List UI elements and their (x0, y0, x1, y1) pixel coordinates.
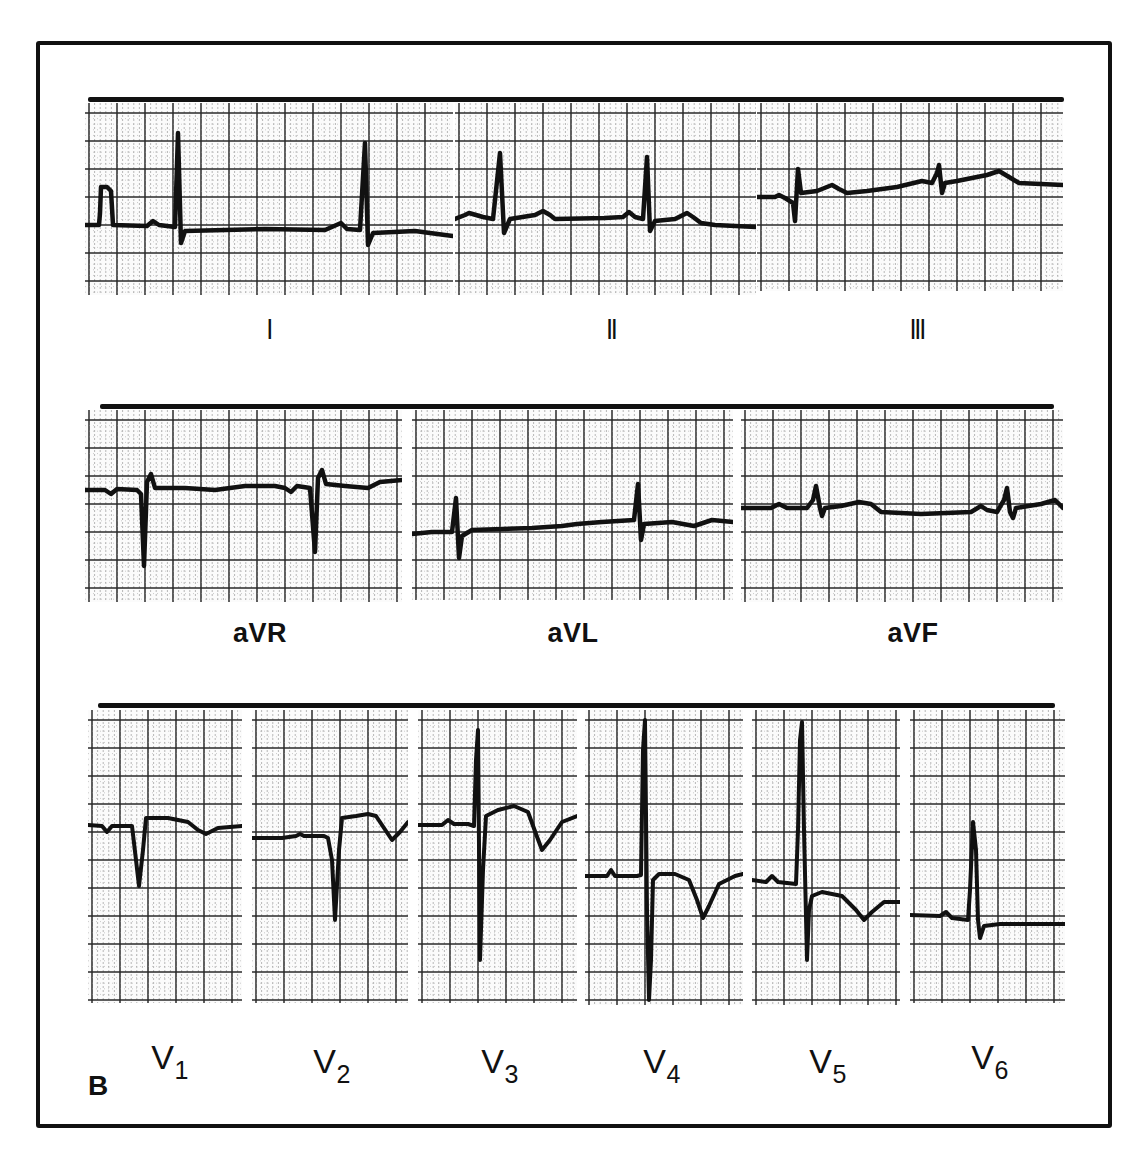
ecg-grid-and-trace (757, 103, 1063, 291)
ecg-grid-and-trace (252, 710, 408, 1003)
ecg-grid-and-trace (910, 710, 1065, 1003)
ecg-grid-and-trace (752, 710, 900, 1005)
lead-label-avr: aVR (205, 618, 315, 649)
ecg-grid-and-trace (585, 710, 743, 1005)
lead-v1-strip (88, 710, 242, 1003)
lead-i-strip (85, 103, 453, 295)
lead-label-v3: V3 (460, 1042, 540, 1089)
lead-v5-strip (752, 710, 900, 1005)
lead-iii-strip (757, 103, 1063, 291)
lead-label-v5: V5 (788, 1042, 868, 1089)
lead-v4-strip (585, 710, 743, 1005)
lead-label-iii: III (896, 312, 940, 346)
ecg-grid-and-trace (88, 710, 242, 1003)
lead-label-ii: II (590, 312, 634, 346)
ecg-grid-and-trace (455, 103, 756, 295)
ecg-grid-and-trace (85, 103, 453, 295)
lead-label-v4: V4 (622, 1042, 702, 1089)
lead-avf-strip (741, 410, 1063, 602)
lead-v3-strip (418, 710, 577, 1003)
ecg-grid-and-trace (412, 410, 733, 600)
lead-v2-strip (252, 710, 408, 1003)
lead-label-v1: V1 (130, 1038, 210, 1085)
lead-label-i: I (248, 312, 292, 346)
row-3-top-bar (98, 703, 1055, 708)
lead-ii-strip (455, 103, 756, 295)
lead-label-v2: V2 (292, 1042, 372, 1089)
ecg-grid-and-trace (741, 410, 1063, 602)
lead-v6-strip (910, 710, 1065, 1003)
lead-avl-strip (412, 410, 733, 600)
lead-avr-strip (85, 410, 402, 602)
panel-letter: B (88, 1070, 108, 1102)
lead-label-avl: aVL (518, 618, 628, 649)
ecg-grid-and-trace (418, 710, 577, 1003)
lead-label-v6: V6 (950, 1038, 1030, 1085)
lead-label-avf: aVF (858, 618, 968, 649)
row-1-top-bar (88, 97, 1064, 102)
ecg-grid-and-trace (85, 410, 402, 602)
row-2-top-bar (100, 404, 1054, 409)
